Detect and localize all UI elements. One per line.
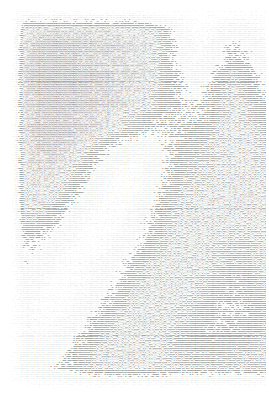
ascii-art-canvas: . .. . ...... .. . ... . . . . . ... . .… [0,0,269,395]
ascii-art-image: . .. . ...... .. . ... . . . . . ... . .… [12,10,266,388]
